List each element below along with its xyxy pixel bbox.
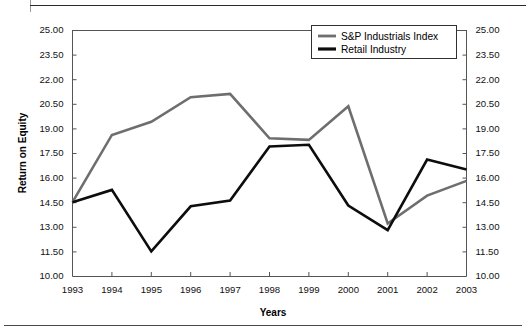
y-axis-tick-label-right: 16.00 <box>476 172 500 183</box>
y-axis-tick-label-right: 14.50 <box>476 197 500 208</box>
y-axis-tick-label-left: 10.00 <box>39 270 63 281</box>
legend-label-retail-industry: Retail Industry <box>341 44 407 55</box>
y-axis-tick-label-left: 13.00 <box>39 221 63 232</box>
x-axis-tick-label: 2001 <box>377 284 398 295</box>
y-axis-tick-label-left: 20.50 <box>39 98 63 109</box>
axis-tick-marks <box>73 31 467 277</box>
y-axis-tick-label-right: 22.00 <box>476 74 500 85</box>
x-axis-tick-labels: 1993199419951996199719981999200020012002… <box>62 284 477 295</box>
x-axis-tick-label: 1996 <box>180 284 201 295</box>
y-axis-tick-label-right: 11.50 <box>476 246 499 257</box>
y-axis-tick-label-right: 10.00 <box>476 270 500 281</box>
y-axis-tick-label-left: 19.00 <box>39 123 63 134</box>
y-axis-tick-label-left: 16.00 <box>39 172 63 183</box>
y-axis-tick-label-left: 14.50 <box>39 197 63 208</box>
x-axis-tick-label: 2000 <box>338 284 359 295</box>
y-axis-tick-label-left: 11.50 <box>40 246 63 257</box>
y-axis-tick-label-left: 17.50 <box>39 147 63 158</box>
y-axis-title: Return on Equity <box>17 112 28 193</box>
y-axis-right-tick-labels: 10.0011.5013.0014.5016.0017.5019.0020.50… <box>476 24 500 281</box>
x-axis-tick-label: 1995 <box>141 284 162 295</box>
y-axis-tick-label-right: 19.00 <box>476 123 500 134</box>
x-axis-tick-label: 2002 <box>416 284 437 295</box>
y-axis-tick-label-left: 25.00 <box>39 24 63 35</box>
y-axis-left-tick-labels: 10.0011.5013.0014.5016.0017.5019.0020.50… <box>39 24 63 281</box>
y-axis-tick-label-right: 25.00 <box>476 24 500 35</box>
legend-label-sp-industrials-index: S&P Industrials Index <box>341 31 438 42</box>
line-chart-svg: 10.0011.5013.0014.5016.0017.5019.0020.50… <box>0 0 526 334</box>
x-axis-tick-label: 1999 <box>298 284 319 295</box>
x-axis-tick-label: 1998 <box>259 284 280 295</box>
y-axis-tick-label-right: 23.50 <box>476 49 500 60</box>
x-axis-tick-label: 1994 <box>101 284 123 295</box>
x-axis-tick-label: 1993 <box>62 284 83 295</box>
y-axis-tick-label-left: 22.00 <box>39 74 63 85</box>
chart-figure: 10.0011.5013.0014.5016.0017.5019.0020.50… <box>0 0 526 334</box>
x-axis-title: Years <box>260 307 287 318</box>
x-axis-tick-label: 1997 <box>219 284 240 295</box>
y-axis-tick-label-left: 23.50 <box>39 49 63 60</box>
chart-legend[interactable]: S&P Industrials Index Retail Industry <box>312 26 457 59</box>
y-axis-tick-label-right: 20.50 <box>476 98 500 109</box>
y-axis-tick-label-right: 17.50 <box>476 147 500 158</box>
series-line-retail-industry <box>73 145 467 252</box>
x-axis-tick-label: 2003 <box>456 284 477 295</box>
y-axis-tick-label-right: 13.00 <box>476 221 500 232</box>
series-line-sp-industrials-index <box>73 94 467 224</box>
